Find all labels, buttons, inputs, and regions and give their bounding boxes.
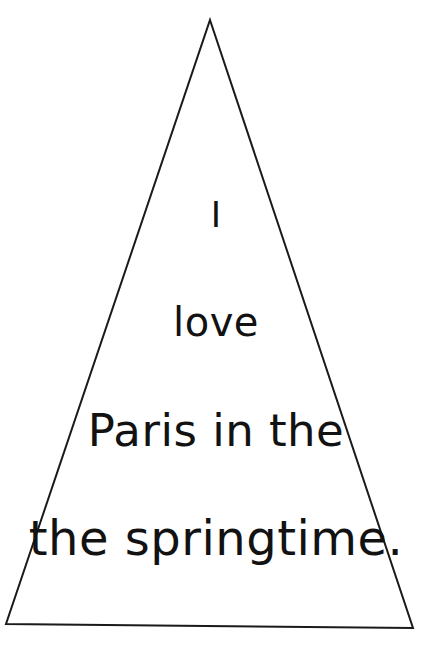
text-line-2: love xyxy=(0,302,432,342)
illusion-canvas: I love Paris in the the springtime. xyxy=(0,0,432,657)
text-line-4: the springtime. xyxy=(0,514,432,562)
text-line-1: I xyxy=(0,198,432,233)
text-line-3: Paris in the xyxy=(0,408,432,453)
text-block: I love Paris in the the springtime. xyxy=(0,0,432,657)
